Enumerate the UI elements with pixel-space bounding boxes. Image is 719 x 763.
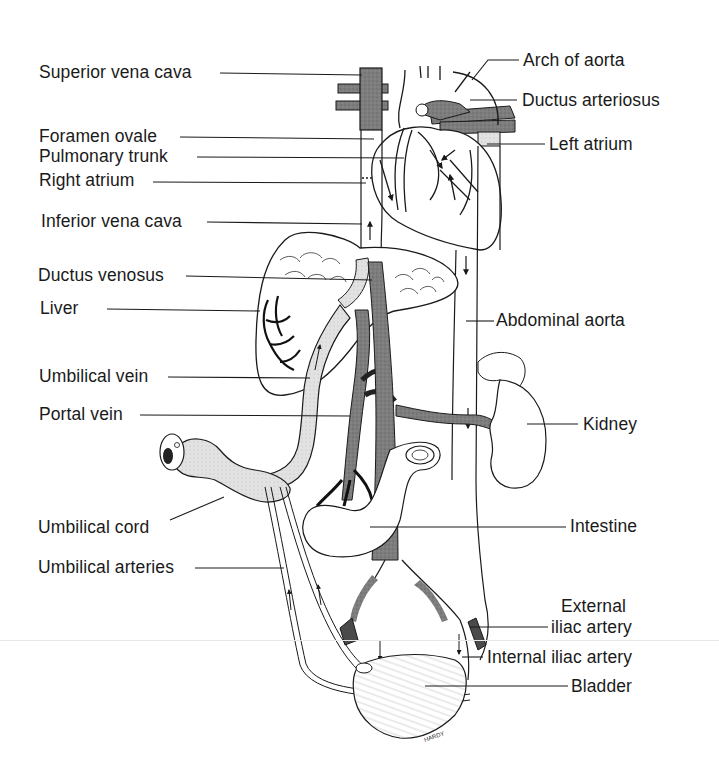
label-external-iliac-artery-line1: External [561, 596, 626, 616]
label-superior-vena-cava: Superior vena cava [39, 62, 192, 82]
label-umbilical-vein: Umbilical vein [39, 366, 148, 386]
scan-artifact-line [0, 640, 719, 641]
label-pulmonary-trunk: Pulmonary trunk [39, 146, 168, 166]
label-internal-iliac-artery: Internal iliac artery [487, 647, 632, 667]
superior-vena-cava-vessel [360, 68, 382, 130]
label-right-atrium: Right atrium [39, 170, 135, 190]
label-external-iliac-artery-line2: iliac artery [551, 617, 632, 637]
label-kidney: Kidney [583, 414, 637, 434]
label-portal-vein: Portal vein [39, 404, 123, 424]
label-ductus-arteriosus: Ductus arteriosus [522, 90, 660, 110]
label-bladder: Bladder [571, 676, 632, 696]
label-intestine: Intestine [570, 516, 637, 536]
label-arch-of-aorta: Arch of aorta [523, 50, 625, 70]
label-left-atrium: Left atrium [549, 134, 633, 154]
bladder-organ: HARDY [353, 655, 466, 743]
umbilical-cord-organ [160, 434, 290, 502]
label-ductus-venosus: Ductus venosus [38, 265, 164, 285]
label-abdominal-aorta: Abdominal aorta [496, 310, 625, 330]
label-umbilical-cord: Umbilical cord [38, 517, 149, 537]
label-inferior-vena-cava: Inferior vena cava [41, 211, 182, 231]
label-umbilical-arteries: Umbilical arteries [38, 557, 174, 577]
renal-vessels [396, 405, 500, 432]
fetal-circulation-diagram: HARDY Superior vena cava Foramen [0, 0, 719, 763]
label-foramen-ovale: Foramen ovale [39, 126, 157, 146]
label-liver: Liver [40, 298, 78, 318]
